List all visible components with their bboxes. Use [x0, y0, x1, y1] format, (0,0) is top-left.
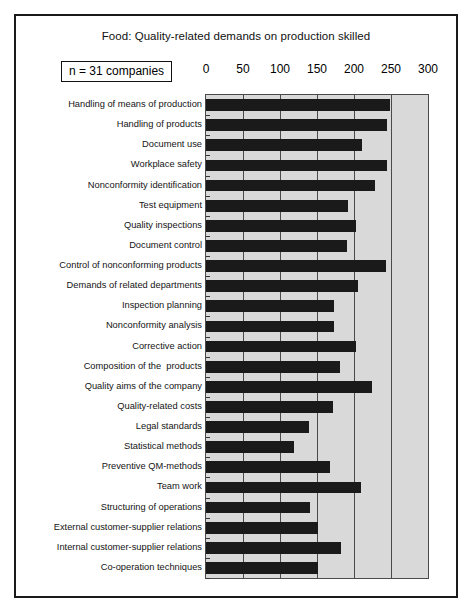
y-tick-mark [206, 457, 210, 458]
category-label: Preventive QM-methods [102, 461, 202, 471]
category-label: Handling of products [117, 119, 202, 129]
chart-title: Food: Quality-related demands on product… [16, 30, 456, 42]
y-tick-mark [206, 518, 210, 519]
y-tick-mark [206, 135, 210, 136]
category-label: Composition of the products [84, 361, 202, 371]
category-label: Quality inspections [124, 220, 202, 230]
category-label: Demands of related departments [67, 280, 202, 290]
category-label: Legal standards [136, 421, 202, 431]
bar [206, 180, 375, 192]
category-label: Statistical methods [124, 441, 202, 451]
category-label: Quality-related costs [117, 401, 202, 411]
y-tick-mark [206, 176, 210, 177]
bar [206, 482, 361, 494]
y-tick-mark [206, 377, 210, 378]
bar [206, 522, 318, 534]
plot-area [205, 94, 429, 579]
y-tick-mark [206, 296, 210, 297]
bar [206, 542, 341, 554]
y-tick-mark [206, 477, 210, 478]
category-label: Nonconformity analysis [106, 320, 202, 330]
category-label: Workplace safety [131, 159, 202, 169]
bar [206, 160, 387, 172]
x-tick-label: 50 [236, 62, 249, 76]
bar [206, 139, 362, 151]
bar [206, 200, 348, 212]
category-label: Nonconformity identification [88, 180, 202, 190]
category-label: Document control [129, 240, 202, 250]
bar [206, 562, 318, 574]
y-tick-mark [206, 417, 210, 418]
gridline [391, 95, 392, 578]
y-tick-mark [206, 216, 210, 217]
x-tick-label: 100 [270, 62, 290, 76]
category-label: Quality aims of the company [85, 381, 202, 391]
bar [206, 260, 386, 272]
category-label: Test equipment [139, 200, 202, 210]
y-tick-mark [206, 437, 210, 438]
bar [206, 220, 356, 232]
y-tick-mark [206, 337, 210, 338]
bar [206, 240, 347, 252]
chart-figure: Food: Quality-related demands on product… [14, 14, 458, 598]
x-tick-label: 150 [307, 62, 327, 76]
x-axis-tick-labels: 050100150200250300 [16, 62, 456, 78]
x-tick-label: 250 [381, 62, 401, 76]
x-tick-label: 300 [418, 62, 438, 76]
y-axis-category-labels: Handling of means of productionHandling … [26, 94, 202, 579]
y-tick-mark [206, 256, 210, 257]
bar [206, 421, 309, 433]
x-tick-label: 0 [203, 62, 210, 76]
category-label: Team work [157, 481, 202, 491]
category-label: Handling of means of production [68, 99, 202, 109]
category-label: Control of nonconforming products [59, 260, 202, 270]
category-label: Co-operation techniques [101, 562, 202, 572]
y-tick-mark [206, 558, 210, 559]
category-label: External customer-supplier relations [54, 522, 202, 532]
bar [206, 441, 294, 453]
y-tick-mark [206, 276, 210, 277]
bar [206, 300, 334, 312]
x-tick-label: 200 [344, 62, 364, 76]
y-tick-mark [206, 538, 210, 539]
y-tick-mark [206, 357, 210, 358]
category-label: Inspection planning [122, 300, 202, 310]
bar [206, 361, 340, 373]
bar [206, 502, 310, 514]
bar [206, 280, 358, 292]
y-tick-mark [206, 115, 210, 116]
y-tick-mark [206, 196, 210, 197]
category-label: Document use [142, 139, 202, 149]
y-tick-mark [206, 155, 210, 156]
y-tick-mark [206, 578, 210, 579]
category-label: Structuring of operations [101, 502, 202, 512]
category-label: Corrective action [132, 341, 202, 351]
y-tick-mark [206, 397, 210, 398]
y-tick-mark [206, 316, 210, 317]
bar [206, 461, 330, 473]
y-tick-mark [206, 498, 210, 499]
bar [206, 321, 334, 333]
bar [206, 99, 390, 111]
category-label: Internal customer-supplier relations [57, 542, 202, 552]
y-tick-mark [206, 236, 210, 237]
bar [206, 119, 387, 131]
bar [206, 401, 333, 413]
bar [206, 381, 372, 393]
bar [206, 341, 356, 353]
